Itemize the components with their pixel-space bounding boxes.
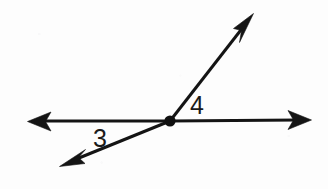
angle-label-4: 4 (190, 93, 204, 118)
ray-upper-right-arrowhead-icon (234, 14, 254, 43)
ray-upper-right-line (170, 26, 244, 121)
ray-lower-left-line (74, 121, 170, 160)
angle-diagram-figure: 3 4 (0, 0, 328, 189)
vertex-dot (164, 115, 175, 126)
diagram-canvas (0, 0, 328, 189)
ray-right-line (170, 120, 298, 121)
angle-label-3: 3 (93, 126, 107, 151)
